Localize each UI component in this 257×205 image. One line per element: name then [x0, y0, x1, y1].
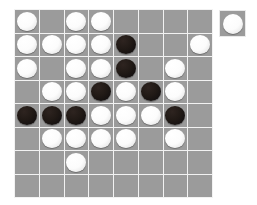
board-cell-1-5[interactable] — [15, 104, 39, 127]
board-cell-7-1[interactable] — [164, 10, 188, 33]
board-cell-2-6[interactable] — [40, 128, 64, 151]
white-disc — [91, 12, 111, 31]
board-cell-3-5[interactable] — [65, 104, 89, 127]
current-player-indicator[interactable] — [219, 10, 246, 37]
board-cell-6-7[interactable] — [139, 151, 163, 174]
board-cell-7-8[interactable] — [164, 175, 188, 198]
board-cell-3-8[interactable] — [65, 175, 89, 198]
board-cell-5-5[interactable] — [114, 104, 138, 127]
white-disc — [91, 35, 111, 54]
white-disc — [66, 59, 86, 78]
board-cell-5-4[interactable] — [114, 81, 138, 104]
board-cell-5-7[interactable] — [114, 151, 138, 174]
board-cell-2-3[interactable] — [40, 57, 64, 80]
white-disc — [141, 106, 161, 125]
board-cell-2-1[interactable] — [40, 10, 64, 33]
board-cell-6-8[interactable] — [139, 175, 163, 198]
board-cell-1-3[interactable] — [15, 57, 39, 80]
board-cell-8-7[interactable] — [188, 151, 212, 174]
board-cell-5-6[interactable] — [114, 128, 138, 151]
board-cell-3-6[interactable] — [65, 128, 89, 151]
board-cell-7-5[interactable] — [164, 104, 188, 127]
board-cell-2-4[interactable] — [40, 81, 64, 104]
white-disc — [42, 82, 62, 101]
board-cell-3-2[interactable] — [65, 34, 89, 57]
board-cell-2-5[interactable] — [40, 104, 64, 127]
board-cell-3-1[interactable] — [65, 10, 89, 33]
board-cell-6-4[interactable] — [139, 81, 163, 104]
black-disc — [141, 82, 161, 101]
white-disc — [91, 59, 111, 78]
board-cell-4-5[interactable] — [89, 104, 113, 127]
board-cell-8-4[interactable] — [188, 81, 212, 104]
white-disc — [91, 106, 111, 125]
board-cell-6-3[interactable] — [139, 57, 163, 80]
board-cell-1-4[interactable] — [15, 81, 39, 104]
black-disc — [17, 106, 37, 125]
board-cell-7-2[interactable] — [164, 34, 188, 57]
board-cell-7-3[interactable] — [164, 57, 188, 80]
board-cell-4-3[interactable] — [89, 57, 113, 80]
white-disc — [91, 129, 111, 148]
board-cell-1-6[interactable] — [15, 128, 39, 151]
black-disc — [66, 106, 86, 125]
board-cell-7-7[interactable] — [164, 151, 188, 174]
board-cell-5-3[interactable] — [114, 57, 138, 80]
board-cell-4-6[interactable] — [89, 128, 113, 151]
othello-app: White to move Othello Board — [0, 0, 257, 205]
white-disc — [42, 35, 62, 54]
board-cell-1-7[interactable] — [15, 151, 39, 174]
white-disc — [165, 59, 185, 78]
white-disc — [66, 82, 86, 101]
board-cell-5-1[interactable] — [114, 10, 138, 33]
board-cell-4-2[interactable] — [89, 34, 113, 57]
board-cell-5-2[interactable] — [114, 34, 138, 57]
board-cell-1-2[interactable] — [15, 34, 39, 57]
board-cell-3-4[interactable] — [65, 81, 89, 104]
board-cell-8-8[interactable] — [188, 175, 212, 198]
board-cell-3-3[interactable] — [65, 57, 89, 80]
turn-indicator-white-disc — [223, 14, 243, 34]
board-cell-6-6[interactable] — [139, 128, 163, 151]
turn-indicator-label: White to move — [0, 0, 1, 1]
board-cell-8-6[interactable] — [188, 128, 212, 151]
board-cell-5-8[interactable] — [114, 175, 138, 198]
white-disc — [66, 35, 86, 54]
black-disc — [116, 35, 136, 54]
app-title: Othello Board — [0, 0, 1, 1]
board-cell-8-1[interactable] — [188, 10, 212, 33]
board-cell-2-7[interactable] — [40, 151, 64, 174]
board-cell-8-2[interactable] — [188, 34, 212, 57]
black-disc — [42, 106, 62, 125]
board-cell-1-1[interactable] — [15, 10, 39, 33]
white-disc — [190, 35, 210, 54]
white-disc — [66, 12, 86, 31]
white-disc — [17, 35, 37, 54]
white-disc — [66, 129, 86, 148]
board-cell-8-3[interactable] — [188, 57, 212, 80]
board-cell-8-5[interactable] — [188, 104, 212, 127]
board-cell-2-2[interactable] — [40, 34, 64, 57]
white-disc — [17, 12, 37, 31]
othello-board[interactable] — [14, 9, 213, 198]
white-disc — [66, 153, 86, 172]
board-cell-4-8[interactable] — [89, 175, 113, 198]
board-cell-4-4[interactable] — [89, 81, 113, 104]
board-cell-3-7[interactable] — [65, 151, 89, 174]
board-cell-6-1[interactable] — [139, 10, 163, 33]
board-cell-7-4[interactable] — [164, 81, 188, 104]
black-disc — [91, 82, 111, 101]
white-disc — [116, 106, 136, 125]
black-disc — [116, 59, 136, 78]
board-cell-2-8[interactable] — [40, 175, 64, 198]
board-cell-4-1[interactable] — [89, 10, 113, 33]
white-disc — [42, 129, 62, 148]
board-cell-6-5[interactable] — [139, 104, 163, 127]
board-cell-1-8[interactable] — [15, 175, 39, 198]
black-disc — [165, 106, 185, 125]
board-cell-7-6[interactable] — [164, 128, 188, 151]
white-disc — [116, 129, 136, 148]
board-cell-6-2[interactable] — [139, 34, 163, 57]
board-cell-4-7[interactable] — [89, 151, 113, 174]
white-disc — [165, 129, 185, 148]
